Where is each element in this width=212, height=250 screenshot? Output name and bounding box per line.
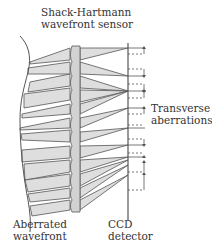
lenslet-array	[71, 46, 81, 212]
ccd-label-line-1: CCD	[108, 218, 153, 230]
ccd-detector-label: CCD detector	[108, 218, 153, 242]
transverse-label-line-1: Transverse	[151, 102, 212, 114]
transverse-aberrations-label: Transverse aberrations	[151, 102, 212, 126]
aberrated-wavefront-label: Aberrated wavefront	[13, 218, 67, 242]
sensor-label-line-1: Shack-Hartmann	[41, 6, 133, 18]
ccd-label-line-2: detector	[108, 230, 153, 242]
sensor-label-line-2: wavefront sensor	[41, 18, 133, 30]
transverse-label-line-2: aberrations	[151, 114, 212, 126]
focused-cones	[80, 48, 128, 210]
reference-spots	[128, 48, 145, 190]
shack-hartmann-diagram: Shack-Hartmann wavefront sensor Transver…	[0, 0, 212, 250]
wavefront-label-line-2: wavefront	[13, 230, 67, 242]
wavefront-label-line-1: Aberrated	[13, 218, 67, 230]
sensor-label: Shack-Hartmann wavefront sensor	[41, 6, 133, 30]
